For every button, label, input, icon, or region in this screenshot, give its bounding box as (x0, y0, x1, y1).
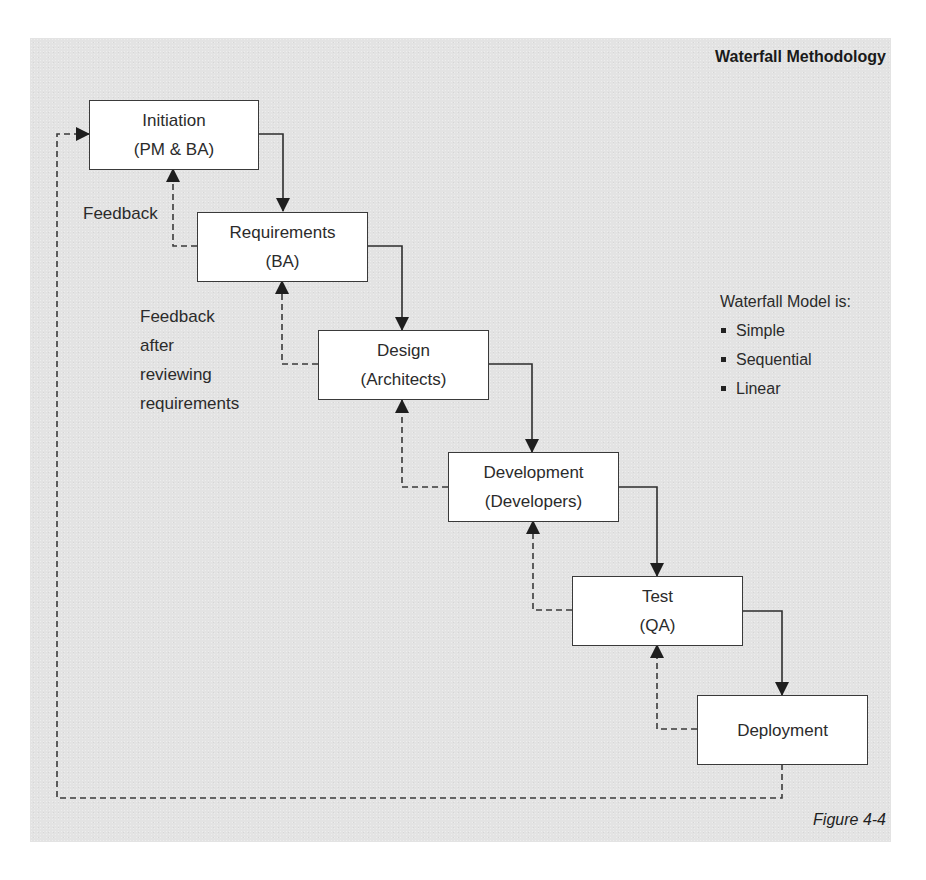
phase-initiation: Initiation (PM & BA) (89, 100, 259, 170)
legend: Waterfall Model is: Simple Sequential Li… (720, 287, 851, 403)
phase-name: Deployment (737, 716, 828, 745)
phase-role: (PM & BA) (134, 135, 214, 164)
phase-name: Initiation (142, 106, 205, 135)
phase-role: (BA) (266, 247, 300, 276)
legend-heading: Waterfall Model is: (720, 287, 851, 316)
feedback-line-3: reviewing (140, 360, 239, 389)
legend-item-label: Sequential (736, 345, 812, 374)
legend-item: Sequential (720, 345, 851, 374)
figure-caption: Figure 4-4 (813, 811, 886, 829)
feedback-design-to-requirements (282, 281, 318, 364)
phase-development: Development (Developers) (448, 452, 619, 522)
bullet-icon (721, 357, 726, 362)
feedback-line-1: Feedback (140, 302, 239, 331)
phase-name: Requirements (230, 218, 336, 247)
arrow-requirements-to-design (367, 246, 402, 330)
bullet-icon (721, 386, 726, 391)
feedback-requirements-to-initiation (173, 169, 197, 246)
phase-role: (QA) (640, 611, 676, 640)
arrow-test-to-deployment (742, 611, 782, 695)
arrow-initiation-to-requirements (258, 134, 283, 211)
feedback-line-4: requirements (140, 389, 239, 418)
phase-name: Development (483, 458, 583, 487)
legend-item: Linear (720, 374, 851, 403)
feedback-line-2: after (140, 331, 239, 360)
legend-item: Simple (720, 316, 851, 345)
feedback-test-to-development (533, 521, 572, 610)
feedback-after-review-label: Feedback after reviewing requirements (140, 302, 239, 418)
phase-design: Design (Architects) (318, 330, 489, 400)
phase-name: Design (377, 336, 430, 365)
feedback-deployment-to-test (657, 645, 697, 729)
bullet-icon (721, 328, 726, 333)
phase-role: (Developers) (485, 487, 582, 516)
phase-requirements: Requirements (BA) (197, 212, 368, 282)
feedback-label: Feedback (83, 199, 158, 228)
phase-test: Test (QA) (572, 576, 743, 646)
phase-deployment: Deployment (697, 695, 868, 765)
feedback-development-to-design (402, 400, 448, 487)
arrow-development-to-test (618, 487, 657, 576)
arrow-design-to-development (488, 364, 532, 452)
phase-role: (Architects) (361, 365, 447, 394)
legend-list: Simple Sequential Linear (720, 316, 851, 403)
phase-name: Test (642, 582, 673, 611)
diagram-title: Waterfall Methodology (715, 48, 886, 66)
legend-item-label: Linear (736, 374, 780, 403)
legend-item-label: Simple (736, 316, 785, 345)
feedback-deployment-to-initiation (57, 134, 782, 798)
